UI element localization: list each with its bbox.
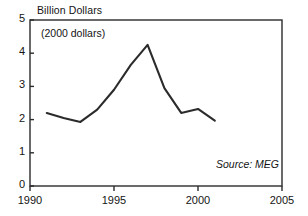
y-tick-label: 5 [3, 12, 25, 24]
y-tick-label: 3 [3, 78, 25, 90]
x-tick-label: 1990 [7, 194, 53, 206]
x-axis-ticks [30, 186, 282, 191]
plot-area [0, 0, 308, 216]
plot-frame [30, 20, 282, 186]
y-tick-label: 1 [3, 145, 25, 157]
y-tick-label: 0 [3, 178, 25, 190]
chart-container: Billion Dollars (2000 dollars) Source: M… [0, 0, 308, 216]
y-tick-label: 4 [3, 45, 25, 57]
data-series-line [47, 45, 215, 122]
x-tick-label: 2005 [259, 194, 305, 206]
x-tick-label: 2000 [175, 194, 221, 206]
x-tick-label: 1995 [91, 194, 137, 206]
y-tick-label: 2 [3, 112, 25, 124]
